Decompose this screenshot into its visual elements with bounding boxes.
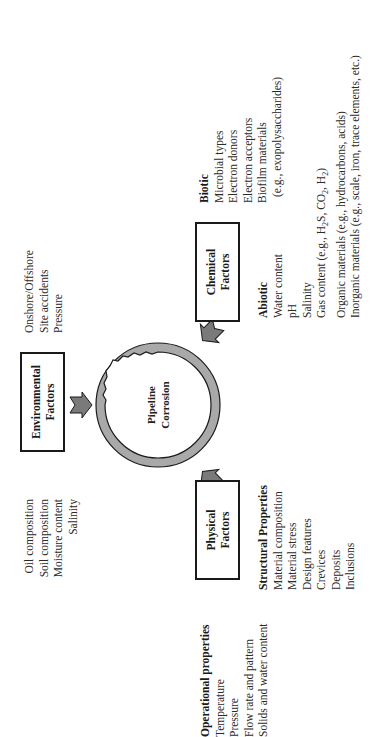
list-item: Onshore/Offshore [22,250,37,333]
list-item: Organic materials (e.g., hydrocarbons, a… [334,55,349,318]
environmental-factors-box: Environmental Factors [20,352,65,452]
list-item: Pressure [227,624,242,737]
pipeline-corrosion-diagram: Pipeline Corrosion Environmental Factors… [0,0,382,737]
list-item: Microbial types [212,77,227,203]
list-item: Deposits [329,485,344,590]
chemical-factors-box: Chemical Factors [195,222,240,322]
list-item: Soil composition [37,499,52,599]
list-item: Inorganic materials (e.g., scale, iron, … [348,55,363,318]
list-item: Material composition [271,485,286,590]
list-item: Crevices [314,485,329,590]
chemical-title-line2: Factors [218,249,232,296]
list-item: Site accidents [37,250,52,333]
physical-title-line1: Physical [204,510,218,551]
environmental-title-line1: Environmental [29,365,43,439]
list-item: Flow rate and pattern [242,624,257,737]
list-item: Water content [271,55,286,318]
abiotic-list: Abiotic Water content pH Salinity Gas co… [256,55,363,318]
environmental-right-list: Onshore/Offshore Site accidents Pressure [22,250,66,333]
environmental-left-list: Oil composition Soil composition Moistur… [22,499,80,599]
center-label-line1: Pipeline [144,365,158,445]
physical-factors-box: Physical Factors [195,480,240,580]
center-label: Pipeline Corrosion [144,365,172,445]
list-item: Inclusions [343,485,358,590]
list-item: pH [285,55,300,318]
list-item: Gas content (e.g., H2S, CO2, H2) [314,55,334,318]
list-item: Temperature [213,624,228,737]
list-item: Electron donors [226,77,241,203]
list-item: Material stress [285,485,300,590]
list-item: Salinity [66,499,81,599]
structural-heading: Structural Properties [256,485,271,590]
list-item: Pressure [51,250,66,333]
list-item: Solids and water content [256,624,271,737]
list-item: Salinity [300,55,315,318]
list-item: Electron acceptors [241,77,256,203]
biotic-heading: Biotic [197,77,212,203]
chemical-title-line1: Chemical [204,249,218,296]
center-label-line2: Corrosion [158,365,172,445]
list-item: Moisture content [51,499,66,599]
operational-list: Operational properties Temperature Press… [198,624,271,737]
list-item: Design features [300,485,315,590]
physical-title-line2: Factors [218,510,232,551]
structural-list: Structural Properties Material compositi… [256,485,358,590]
list-item: Oil composition [22,499,37,599]
environmental-title-line2: Factors [43,365,57,439]
abiotic-heading: Abiotic [256,55,271,318]
operational-heading: Operational properties [198,624,213,737]
arrow-environmental-icon [70,392,92,418]
